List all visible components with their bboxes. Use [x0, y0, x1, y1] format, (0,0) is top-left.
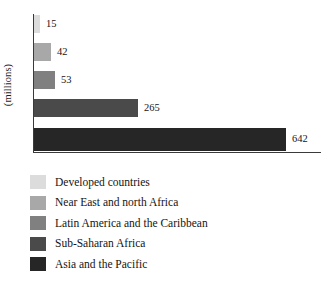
bar-row: 53 [34, 71, 72, 89]
bar-developed-countries[interactable] [34, 15, 40, 33]
legend-item-developed-countries[interactable]: Developed countries [30, 172, 330, 193]
x-axis-line [33, 152, 321, 153]
legend-item-label: Near East and north Africa [55, 197, 178, 209]
bar-value-label: 265 [144, 103, 160, 114]
legend-item-label: Latin America and the Caribbean [55, 218, 208, 230]
legend-swatch [30, 216, 46, 230]
bar-row: 265 [34, 99, 160, 117]
bar-value-label: 15 [46, 19, 57, 30]
bar-sub-saharan-africa[interactable] [34, 99, 138, 117]
bar-asia-and-the-pacific[interactable] [34, 128, 286, 151]
bar-chart-figure: (millions) 15 42 53 265 642 Developed co… [0, 0, 335, 287]
legend-item-asia-and-the-pacific[interactable]: Asia and the Pacific [30, 254, 330, 275]
bar-row: 642 [34, 128, 308, 151]
bar-value-label: 53 [61, 75, 72, 86]
legend-swatch [30, 257, 46, 271]
y-axis-title: (millions) [2, 50, 13, 120]
legend-item-label: Developed countries [55, 177, 150, 189]
legend-swatch [30, 237, 46, 251]
legend-item-near-east-and-north-africa[interactable]: Near East and north Africa [30, 193, 330, 214]
plot-area: (millions) 15 42 53 265 642 [0, 0, 335, 165]
legend-item-sub-saharan-africa[interactable]: Sub-Saharan Africa [30, 234, 330, 255]
chart-legend: Developed countries Near East and north … [30, 172, 330, 275]
bar-value-label: 42 [57, 47, 68, 58]
legend-swatch [30, 175, 46, 189]
bar-latin-america-and-the-caribbean[interactable] [34, 71, 55, 89]
legend-item-label: Sub-Saharan Africa [55, 238, 145, 250]
bar-row: 42 [34, 43, 68, 61]
bar-value-label: 642 [292, 134, 308, 145]
bar-near-east-and-north-africa[interactable] [34, 43, 51, 61]
legend-swatch [30, 196, 46, 210]
legend-item-label: Asia and the Pacific [55, 259, 147, 271]
bar-row: 15 [34, 15, 57, 33]
legend-item-latin-america-and-the-caribbean[interactable]: Latin America and the Caribbean [30, 213, 330, 234]
